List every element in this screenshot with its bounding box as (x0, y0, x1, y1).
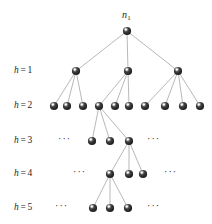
tree-node-highlight (127, 103, 129, 105)
tree-edge (127, 31, 178, 71)
tree-edge (76, 31, 127, 71)
tree-node-highlight (127, 171, 129, 173)
tree-edge (178, 71, 200, 106)
tree-node[interactable] (106, 170, 114, 178)
tree-edge (99, 106, 129, 141)
tree-node[interactable] (79, 102, 87, 110)
tree-node[interactable] (106, 137, 114, 145)
tree-node[interactable] (141, 102, 149, 110)
tree-node-highlight (127, 138, 129, 140)
tree-edge (127, 31, 128, 71)
tree-edge (67, 71, 76, 106)
tree-node-highlight (81, 103, 83, 105)
tree-node-highlight (113, 103, 115, 105)
tree-node-highlight (90, 138, 92, 140)
level-label-value: 5 (28, 202, 33, 212)
level-label-h3: h=3 (14, 135, 32, 145)
tree-node[interactable] (106, 204, 114, 212)
tree-edge (110, 141, 129, 174)
tree-edge (93, 174, 110, 208)
tree-edge (99, 71, 128, 106)
tree-node-highlight (198, 103, 200, 105)
tree-node[interactable] (139, 170, 147, 178)
tree-edge (115, 71, 128, 106)
level-label-value: 3 (28, 135, 33, 145)
tree-node[interactable] (125, 137, 133, 145)
tree-node-highlight (108, 205, 110, 207)
tree-edge (99, 106, 110, 141)
tree-node-highlight (65, 103, 67, 105)
tree-node-highlight (108, 138, 110, 140)
tree-diagram: n1 h=1h=2h=3h=4h=5 ·················· (0, 0, 212, 224)
tree-node[interactable] (50, 102, 58, 110)
level-label-h4: h=4 (14, 168, 32, 178)
tree-node-highlight (108, 171, 110, 173)
level-label-value: 2 (28, 100, 33, 110)
tree-edge (76, 71, 83, 106)
level-label-h2: h=2 (14, 100, 32, 110)
tree-node-highlight (181, 103, 183, 105)
tree-node-highlight (141, 171, 143, 173)
tree-node-highlight (91, 205, 93, 207)
tree-node[interactable] (95, 102, 103, 110)
level-label-value: 4 (28, 168, 33, 178)
level-label-equals: = (19, 65, 28, 75)
tree-node[interactable] (88, 137, 96, 145)
ellipsis-marker: ··· (164, 167, 177, 177)
level-label-equals: = (19, 168, 28, 178)
tree-edge (178, 71, 183, 106)
ellipsis-marker: ··· (55, 201, 68, 211)
root-node-label: n1 (122, 9, 131, 20)
level-label-equals: = (19, 202, 28, 212)
level-label-value: 1 (28, 65, 33, 75)
tree-node[interactable] (124, 204, 132, 212)
ellipsis-marker: ··· (58, 134, 71, 144)
tree-canvas (0, 0, 212, 224)
tree-edge (110, 174, 128, 208)
tree-node-highlight (126, 205, 128, 207)
tree-edge (129, 141, 143, 174)
root-node-label-subscript: 1 (127, 14, 131, 22)
tree-edge (54, 71, 76, 106)
tree-edge (165, 71, 178, 106)
ellipsis-marker: ··· (147, 134, 160, 144)
tree-node-highlight (143, 103, 145, 105)
tree-node[interactable] (124, 67, 132, 75)
tree-node[interactable] (125, 170, 133, 178)
level-label-equals: = (19, 135, 28, 145)
tree-node-highlight (163, 103, 165, 105)
tree-node[interactable] (123, 27, 131, 35)
tree-node-highlight (52, 103, 54, 105)
tree-node-layer (50, 27, 204, 212)
tree-node[interactable] (179, 102, 187, 110)
tree-node[interactable] (161, 102, 169, 110)
ellipsis-marker: ··· (73, 167, 86, 177)
tree-edge (145, 71, 178, 106)
tree-node[interactable] (125, 102, 133, 110)
ellipsis-marker: ··· (147, 201, 160, 211)
tree-node-highlight (176, 68, 178, 70)
tree-node-highlight (125, 28, 127, 30)
tree-node-highlight (74, 68, 76, 70)
tree-node[interactable] (72, 67, 80, 75)
tree-node-highlight (97, 103, 99, 105)
tree-node[interactable] (196, 102, 204, 110)
level-label-h1: h=1 (14, 65, 32, 75)
tree-node-highlight (126, 68, 128, 70)
tree-node[interactable] (174, 67, 182, 75)
tree-edge-layer (54, 31, 200, 208)
tree-node[interactable] (89, 204, 97, 212)
level-label-h5: h=5 (14, 202, 32, 212)
tree-edge (128, 71, 129, 106)
tree-node[interactable] (63, 102, 71, 110)
level-label-equals: = (19, 100, 28, 110)
tree-edge (92, 106, 99, 141)
tree-node[interactable] (111, 102, 119, 110)
